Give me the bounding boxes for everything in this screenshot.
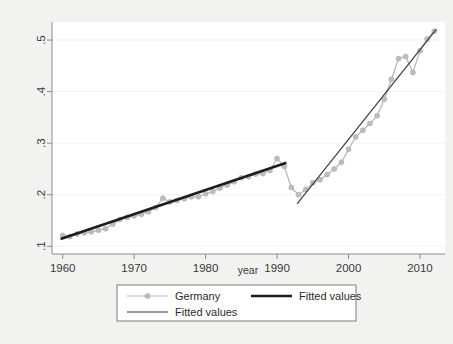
x-axis-title: year	[238, 264, 259, 276]
legend: Germany Fitted values Fitted values	[117, 285, 362, 321]
x-axis-tick-label: 1980	[193, 262, 219, 274]
plot-area-background	[52, 22, 445, 254]
germany-data-point	[296, 192, 301, 197]
germany-data-point	[375, 113, 380, 118]
x-axis-tick-label: 1960	[50, 262, 76, 274]
germany-data-point	[360, 128, 365, 133]
legend-label-fitted-thin: Fitted values	[175, 306, 238, 318]
x-axis-tick-label: 1970	[121, 262, 147, 274]
germany-data-point	[389, 77, 394, 82]
germany-data-point	[103, 226, 108, 231]
germany-data-point	[289, 185, 294, 190]
germany-data-point	[325, 172, 330, 177]
y-axis-tick-label: .4	[35, 86, 47, 96]
y-axis-tick-label: .1	[35, 241, 47, 251]
germany-data-point	[339, 160, 344, 165]
germany-data-point	[275, 156, 280, 161]
x-axis-tick-label: 2000	[336, 262, 362, 274]
y-axis-tick-label: .2	[35, 190, 47, 200]
x-axis-tick-label: 2010	[407, 262, 433, 274]
germany-data-point	[196, 194, 201, 199]
legend-label-fitted-thick: Fitted values	[299, 290, 362, 302]
x-axis-tick-label: 1990	[264, 262, 290, 274]
germany-data-point	[332, 166, 337, 171]
germany-data-point	[346, 147, 351, 152]
legend-germany-marker-icon	[145, 293, 150, 298]
germany-data-point	[160, 196, 165, 201]
chart-svg: .1.2.3.4.5 196019701980199020002010 year…	[0, 0, 453, 344]
y-axis-tick-label: .5	[35, 35, 47, 45]
germany-data-point	[353, 134, 358, 139]
germany-data-point	[96, 228, 101, 233]
chart-figure: .1.2.3.4.5 196019701980199020002010 year…	[0, 0, 453, 344]
germany-data-point	[396, 56, 401, 61]
germany-data-point	[410, 70, 415, 75]
legend-label-germany: Germany	[175, 290, 221, 302]
germany-data-point	[367, 121, 372, 126]
germany-data-point	[210, 189, 215, 194]
germany-data-point	[403, 54, 408, 59]
y-axis-tick-label: .3	[35, 138, 47, 148]
